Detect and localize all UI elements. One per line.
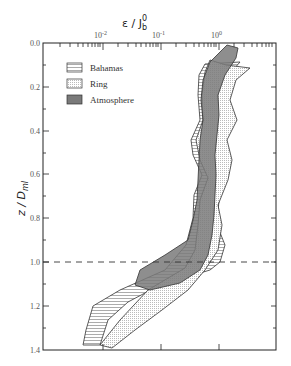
legend-label-atmosphere: Atmosphere	[90, 95, 134, 105]
legend-swatch-atmosphere	[67, 95, 82, 104]
legend: Bahamas Ring Atmosphere	[67, 63, 134, 105]
x-tick-label: 10-1	[152, 30, 165, 40]
x-tick-label: 10-2	[94, 30, 107, 40]
legend-swatch-ring	[67, 79, 82, 88]
y-axis-label: z / Dml	[15, 180, 30, 217]
svg-text:0.6: 0.6	[30, 170, 40, 179]
svg-text:0.0: 0.0	[30, 39, 40, 48]
svg-text:1.2: 1.2	[30, 302, 40, 311]
svg-text:0.4: 0.4	[30, 127, 40, 136]
svg-text:0.2: 0.2	[30, 83, 40, 92]
legend-label-ring: Ring	[90, 79, 108, 89]
svg-text:0.8: 0.8	[30, 214, 40, 223]
y-tick-labels: 0.0 0.2 0.4 0.6 0.8 1.0 1.2 1.4	[30, 39, 40, 355]
svg-text:1.0: 1.0	[30, 258, 40, 267]
svg-text:1.4: 1.4	[30, 346, 40, 355]
x-tick-label: 100	[211, 30, 222, 40]
chart: 10-2 10-1 100 0.0 0.2 0.4 0.6 0.8 1.0 1.…	[0, 0, 291, 366]
x-axis-label: ε / Jb0	[122, 14, 147, 32]
legend-label-bahamas: Bahamas	[90, 63, 123, 73]
legend-swatch-bahamas	[67, 63, 82, 72]
